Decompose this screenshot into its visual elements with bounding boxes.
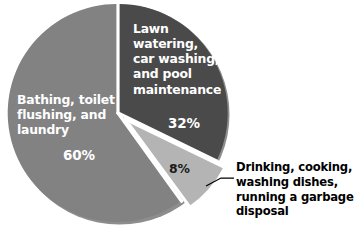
slice-value-lawn: 32% — [168, 116, 200, 131]
slice-label-lawn: Lawn watering, car washing, and pool mai… — [133, 21, 237, 97]
pie-chart-figure: Lawn watering, car washing, and pool mai… — [0, 0, 361, 239]
slice-value-bathing: 60% — [63, 148, 95, 163]
slice-label-bathing: Bathing, toilet flushing, and laundry — [17, 92, 139, 137]
slice-label-drinking: Drinking, cooking, washing dishes, runni… — [236, 160, 361, 219]
slice-value-drinking: 8% — [169, 162, 190, 176]
